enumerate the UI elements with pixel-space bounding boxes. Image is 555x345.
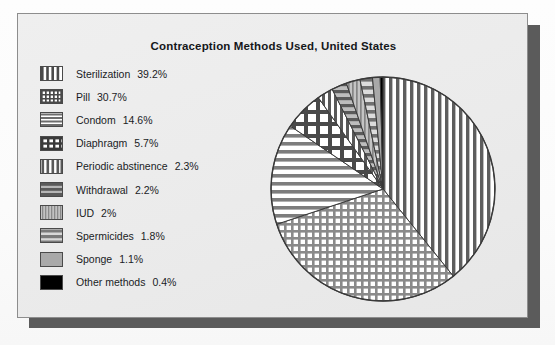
legend-swatch-coarse-checker	[40, 136, 63, 151]
legend-swatch-vertical-stripes	[40, 66, 63, 81]
legend-label: Spermicides1.8%	[76, 230, 165, 242]
legend-item-iud[interactable]: IUD2%	[40, 201, 255, 224]
chart-legend: Sterilization39.2% Pill30.7% Condom	[40, 62, 255, 294]
legend-label: Periodic abstinence2.3%	[76, 160, 199, 172]
legend-item-spermicides[interactable]: Spermicides1.8%	[40, 224, 255, 247]
legend-swatch-vertical-stripes-wide	[40, 159, 63, 174]
legend-item-other-methods[interactable]: Other methods0.4%	[40, 271, 255, 294]
legend-label: IUD2%	[76, 207, 116, 219]
pie-chart-svg	[256, 62, 506, 312]
chart-title: Contraception Methods Used, United State…	[18, 40, 529, 52]
legend-label: Sponge1.1%	[76, 253, 143, 265]
chart-panel: Contraception Methods Used, United State…	[17, 13, 528, 318]
legend-label: Diaphragm5.7%	[76, 137, 158, 149]
legend-item-diaphragm[interactable]: Diaphragm5.7%	[40, 132, 255, 155]
legend-label: Other methods0.4%	[76, 276, 176, 288]
pie-chart	[256, 62, 506, 312]
legend-label: Withdrawal2.2%	[76, 184, 159, 196]
legend-swatch-fine-vertical-stripes	[40, 205, 63, 220]
pie-slice-group	[271, 77, 495, 301]
legend-label: Condom14.6%	[76, 114, 152, 126]
legend-item-condom[interactable]: Condom14.6%	[40, 108, 255, 131]
legend-swatch-horizontal-stripes	[40, 112, 63, 127]
legend-item-sterilization[interactable]: Sterilization39.2%	[40, 62, 255, 85]
legend-swatch-solid-gray	[40, 252, 63, 267]
legend-swatch-solid-black	[40, 275, 63, 290]
scanned-page: Contraception Methods Used, United State…	[0, 0, 555, 345]
legend-swatch-grid-crosshatch	[40, 89, 63, 104]
legend-item-pill[interactable]: Pill30.7%	[40, 85, 255, 108]
legend-item-sponge[interactable]: Sponge1.1%	[40, 248, 255, 271]
legend-label: Pill30.7%	[76, 91, 127, 103]
legend-swatch-horizontal-bands	[40, 228, 63, 243]
legend-item-withdrawal[interactable]: Withdrawal2.2%	[40, 178, 255, 201]
legend-swatch-horizontal-stripes-wide	[40, 182, 63, 197]
legend-item-periodic-abstinence[interactable]: Periodic abstinence2.3%	[40, 155, 255, 178]
legend-label: Sterilization39.2%	[76, 68, 167, 80]
